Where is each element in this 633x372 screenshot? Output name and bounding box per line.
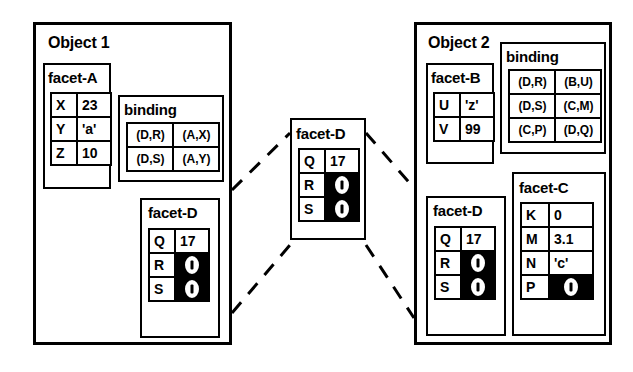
table-row[interactable]: Q 17 (299, 149, 359, 173)
pointer-oval-icon (550, 276, 592, 298)
o2-facet-d-value-0: 17 (461, 227, 495, 251)
facet-b-value-0: 'z' (460, 93, 494, 117)
facet-a-value-1: 'a' (77, 117, 111, 141)
diagram-canvas: Object 1 facet-A X 23 Y 'a' Z 10 binding… (0, 0, 633, 372)
o1-binding-right-0: (A,X) (173, 123, 219, 147)
table-row[interactable]: (D,R) (A,X) (127, 123, 219, 147)
center-facet-d-table: Q 17 R S (298, 148, 360, 222)
o2-facet-d-key-0: Q (435, 227, 461, 251)
facet-b-table: U 'z' V 99 (433, 92, 495, 142)
o1-facet-d-pointer-1[interactable] (175, 253, 209, 277)
connector-left-lower (232, 245, 290, 313)
pointer-oval-icon (326, 174, 358, 196)
table-row[interactable]: N 'c' (521, 251, 593, 275)
table-row[interactable]: U 'z' (434, 93, 494, 117)
connector-right-lower (366, 245, 414, 318)
o1-binding-left-0: (D,R) (127, 123, 173, 147)
o2-binding-left-2: (C,P) (509, 118, 555, 142)
o2-binding-right-0: (B,U) (555, 70, 601, 94)
object-1-binding-title: binding (124, 102, 177, 117)
o2-facet-d-pointer-1[interactable] (461, 251, 495, 275)
table-row[interactable]: S (435, 275, 495, 299)
table-row[interactable]: S (299, 197, 359, 221)
facet-c-value-2: 'c' (549, 251, 593, 275)
connector-left-upper (232, 133, 290, 190)
facet-c-key-2: N (521, 251, 549, 275)
table-row[interactable]: P (521, 275, 593, 299)
facet-a-table: X 23 Y 'a' Z 10 (50, 92, 112, 166)
pointer-oval-icon (462, 252, 494, 274)
pointer-oval-icon (176, 254, 208, 276)
pointer-oval-icon (176, 278, 208, 300)
table-row[interactable]: V 99 (434, 117, 494, 141)
connector-right-upper (366, 133, 414, 188)
object-1-title: Object 1 (48, 35, 110, 51)
center-facet-d-pointer-1[interactable] (325, 173, 359, 197)
center-facet-d-value-0: 17 (325, 149, 359, 173)
facet-a-key-0: X (51, 93, 77, 117)
table-row[interactable]: K 0 (521, 203, 593, 227)
center-facet-d-pointer-2[interactable] (325, 197, 359, 221)
o2-binding-left-1: (D,S) (509, 94, 555, 118)
o1-facet-d-key-0: Q (149, 229, 175, 253)
object-1-facet-d-table: Q 17 R S (148, 228, 210, 302)
facet-c-table: K 0 M 3.1 N 'c' P (520, 202, 594, 300)
facet-b-key-1: V (434, 117, 460, 141)
o1-binding-right-1: (A,Y) (173, 147, 219, 171)
facet-b-value-1: 99 (460, 117, 494, 141)
object-2-facet-d-title: facet-D (433, 203, 482, 218)
table-row[interactable]: Q 17 (435, 227, 495, 251)
table-row[interactable]: Z 10 (51, 141, 111, 165)
o1-facet-d-value-0: 17 (175, 229, 209, 253)
o1-binding-left-1: (D,S) (127, 147, 173, 171)
object-2-facet-d-table: Q 17 R S (434, 226, 496, 300)
object-2-binding-title: binding (506, 49, 559, 64)
facet-a-value-0: 23 (77, 93, 111, 117)
facet-a-value-2: 10 (77, 141, 111, 165)
center-facet-d-key-2: S (299, 197, 325, 221)
table-row[interactable]: (C,P) (D,Q) (509, 118, 601, 142)
o2-facet-d-key-1: R (435, 251, 461, 275)
table-row[interactable]: Y 'a' (51, 117, 111, 141)
table-row[interactable]: S (149, 277, 209, 301)
o2-binding-right-1: (C,M) (555, 94, 601, 118)
o2-binding-right-2: (D,Q) (555, 118, 601, 142)
o2-facet-d-key-2: S (435, 275, 461, 299)
object-2-binding-table: (D,R) (B,U) (D,S) (C,M) (C,P) (D,Q) (508, 69, 602, 143)
center-facet-d-key-1: R (299, 173, 325, 197)
o1-facet-d-key-1: R (149, 253, 175, 277)
o1-facet-d-key-2: S (149, 277, 175, 301)
facet-c-value-0: 0 (549, 203, 593, 227)
facet-c-key-3: P (521, 275, 549, 299)
table-row[interactable]: (D,S) (A,Y) (127, 147, 219, 171)
facet-c-value-1: 3.1 (549, 227, 593, 251)
pointer-oval-icon (326, 198, 358, 220)
facet-c-title: facet-C (519, 180, 568, 195)
facet-b-key-0: U (434, 93, 460, 117)
facet-c-key-0: K (521, 203, 549, 227)
table-row[interactable]: M 3.1 (521, 227, 593, 251)
table-row[interactable]: (D,R) (B,U) (509, 70, 601, 94)
facet-a-title: facet-A (48, 70, 97, 85)
facet-c-pointer-3[interactable] (549, 275, 593, 299)
object-1-facet-d-title: facet-D (148, 205, 197, 220)
table-row[interactable]: R (435, 251, 495, 275)
o2-binding-left-0: (D,R) (509, 70, 555, 94)
facet-c-key-1: M (521, 227, 549, 251)
o1-facet-d-pointer-2[interactable] (175, 277, 209, 301)
facet-b-title: facet-B (431, 70, 480, 85)
facet-a-key-1: Y (51, 117, 77, 141)
table-row[interactable]: X 23 (51, 93, 111, 117)
table-row[interactable]: (D,S) (C,M) (509, 94, 601, 118)
pointer-oval-icon (462, 276, 494, 298)
center-facet-d-title: facet-D (296, 126, 345, 141)
object-2-title: Object 2 (428, 35, 490, 51)
table-row[interactable]: R (299, 173, 359, 197)
table-row[interactable]: Q 17 (149, 229, 209, 253)
table-row[interactable]: R (149, 253, 209, 277)
object-1-binding-table: (D,R) (A,X) (D,S) (A,Y) (126, 122, 220, 172)
facet-a-key-2: Z (51, 141, 77, 165)
o2-facet-d-pointer-2[interactable] (461, 275, 495, 299)
center-facet-d-key-0: Q (299, 149, 325, 173)
